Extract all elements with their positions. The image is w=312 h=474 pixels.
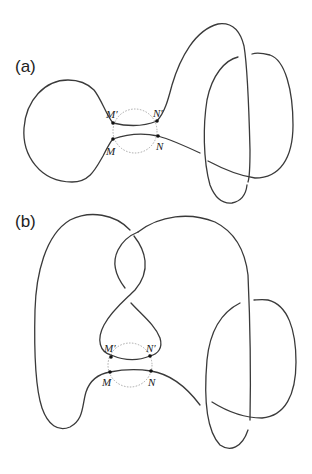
- label-m-prime-a: M′: [105, 108, 118, 120]
- point-m-a: [111, 137, 115, 141]
- lower-strand: [113, 134, 158, 139]
- knot-diagram: M′ N′ M N M′ N′ M N: [0, 0, 312, 474]
- point-m-prime-a: [111, 121, 115, 125]
- upper-strand: [113, 121, 157, 125]
- upper-strand-b: [111, 355, 150, 360]
- twist-strand-3: [115, 232, 138, 288]
- point-n-b: [149, 369, 153, 373]
- twist-strand-2: [138, 216, 250, 420]
- point-n-prime-a: [155, 119, 159, 123]
- lower-right-strand: [158, 136, 200, 153]
- label-n-prime-b: N′: [145, 342, 156, 354]
- knot-inner-loop: [204, 57, 247, 203]
- label-n-b: N: [147, 376, 156, 388]
- label-n-a: N: [155, 140, 164, 152]
- left-big-loop: [35, 215, 130, 429]
- label-m-prime-b: M′: [103, 342, 116, 354]
- point-m-prime-b: [109, 355, 113, 359]
- point-n-a: [156, 134, 160, 138]
- upper-right-arc: [157, 24, 250, 182]
- point-m-b: [108, 370, 112, 374]
- label-m-a: M: [105, 145, 116, 157]
- left-lobe-strand: [24, 80, 113, 182]
- panel-b: [35, 215, 296, 449]
- dashed-circle-a: [113, 109, 157, 153]
- twist-strand-1: [100, 236, 145, 355]
- point-n-prime-b: [148, 354, 152, 358]
- knot-outer-loop-b: [212, 300, 296, 418]
- label-n-prime-a: N′: [152, 107, 163, 119]
- label-m-b: M: [101, 376, 112, 388]
- knot-inner-loop-b: [206, 303, 248, 448]
